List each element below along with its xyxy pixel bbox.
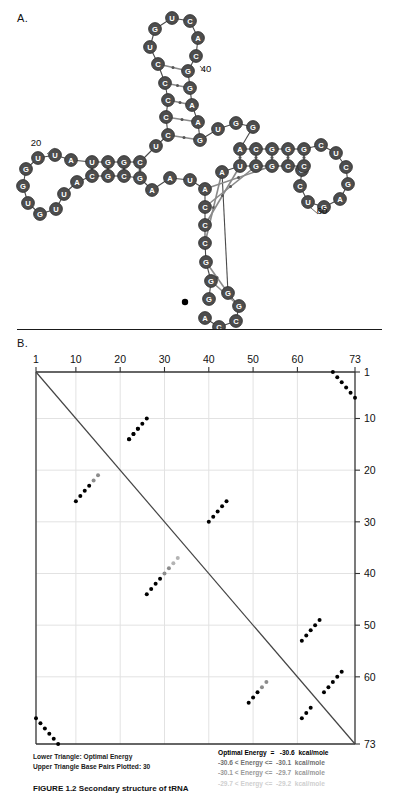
svg-text:C: C	[285, 162, 291, 171]
svg-text:A: A	[195, 118, 201, 127]
dotplot-point	[256, 690, 260, 694]
dotplot-ticks	[36, 367, 360, 744]
dotplot-point	[83, 489, 87, 493]
y-tick-label-1: 1	[364, 366, 370, 378]
nucleotide-58: A	[334, 193, 347, 206]
dotplot-point	[300, 716, 304, 720]
x-tick-label-40: 40	[203, 353, 215, 365]
nucleotide-27: G	[118, 156, 131, 169]
nucleotide-25: U	[86, 156, 99, 169]
position-marker-20: 20	[31, 137, 42, 148]
nucleotide-68: A	[216, 166, 229, 179]
figure-caption: FIGURE 1.2 Secondary structure of tRNA	[33, 784, 383, 793]
svg-text:A: A	[202, 314, 208, 323]
nucleotide-69: G	[222, 287, 235, 300]
svg-text:C: C	[165, 96, 171, 105]
nucleotide-66: G	[250, 160, 263, 173]
nucleotide-48: G	[247, 121, 260, 134]
nucleotide-30: C	[162, 129, 175, 142]
dotplot-point	[167, 566, 171, 570]
dotplot-point	[331, 370, 335, 374]
dotplot-point	[251, 696, 255, 700]
svg-text:G: G	[121, 158, 127, 167]
nucleotide-12: C	[118, 170, 131, 183]
dotplot-point	[216, 510, 220, 514]
nucleotide-29: U	[150, 140, 163, 153]
svg-text:C: C	[202, 239, 208, 248]
nucleotide-1: G	[203, 293, 216, 306]
svg-text:G: G	[285, 145, 291, 154]
svg-text:U: U	[187, 176, 193, 185]
svg-text:C: C	[165, 131, 171, 140]
legend-lower-triangle: Lower Triangle: Optimal Energy	[33, 752, 150, 762]
dotplot-point	[335, 675, 339, 679]
dotplot-point	[264, 680, 268, 684]
nucleotide-22: U	[32, 152, 45, 165]
nucleotide-45: G	[194, 134, 207, 147]
dotplot-point	[247, 701, 251, 705]
dotplot-frame	[36, 372, 355, 744]
nucleotide-14: C	[86, 170, 99, 183]
nucleotide-61: C	[294, 180, 307, 193]
nucleotide-43: A	[186, 99, 199, 112]
dotplot-point	[220, 504, 224, 508]
energy-legend-row-tier2: -30.1 < Energy <= -29.7 kcal/mole	[218, 768, 329, 778]
nucleotide-57: G	[342, 178, 355, 191]
nucleotide-15: A	[71, 176, 84, 189]
nucleotide-36: G	[149, 23, 162, 36]
nucleotide-9: A	[164, 172, 177, 185]
svg-text:C: C	[318, 141, 324, 150]
svg-text:G: G	[185, 67, 191, 76]
nucleotide-32: C	[162, 94, 175, 107]
x-tick-label-1: 1	[33, 353, 39, 365]
dotplot-point	[322, 690, 326, 694]
dotplot-point	[56, 742, 60, 746]
nucleotide-5: C	[199, 219, 212, 232]
nucleotide-50: C	[250, 143, 263, 156]
svg-text:C: C	[187, 17, 193, 26]
nucleotide-52: G	[282, 143, 295, 156]
svg-text:C: C	[297, 182, 303, 191]
svg-text:C: C	[343, 163, 349, 172]
svg-text:U: U	[147, 43, 153, 52]
nucleotide-18: G	[34, 208, 47, 221]
nucleotide-42: G	[184, 82, 197, 95]
dotplot-point	[349, 391, 353, 395]
dotplot-point	[344, 386, 348, 390]
svg-text:A: A	[237, 145, 243, 154]
nucleotide-31: C	[160, 111, 173, 124]
svg-text:U: U	[52, 151, 58, 160]
y-tick-label-60: 60	[364, 671, 376, 683]
nucleotide-8: U	[184, 174, 197, 187]
svg-text:G: G	[225, 289, 231, 298]
dotplot-point	[309, 628, 313, 632]
dotplot-point	[313, 623, 317, 627]
nucleotide-6: C	[199, 201, 212, 214]
svg-text:A: A	[68, 156, 74, 165]
svg-text:C: C	[193, 52, 199, 61]
nucleotide-71: C	[230, 315, 243, 328]
svg-text:C: C	[163, 113, 169, 122]
dotplot-legend-energy: Optimal Energy = -30.6 kcal/mole -30.6 <…	[218, 748, 329, 789]
nucleotide-55: U	[330, 147, 343, 160]
nucleotide-60: U	[302, 196, 315, 209]
y-tick-label-10: 10	[364, 412, 376, 424]
dotplot-point	[326, 685, 330, 689]
svg-text:G: G	[236, 302, 242, 311]
dotplot-point	[145, 417, 149, 421]
dotplot-point	[43, 727, 47, 731]
svg-text:G: G	[233, 119, 239, 128]
svg-text:U: U	[237, 162, 243, 171]
rna-nucleotide-nodes: GGGCCCAUAAGCGCAUUGUGGUUAUGGCUCCCCCUGUCAC…	[17, 12, 355, 330]
nucleotide-40: C	[190, 50, 203, 63]
nucleotide-54: C	[315, 139, 328, 152]
nucleotide-46: U	[212, 123, 225, 136]
nucleotide-28: C	[134, 156, 147, 169]
svg-text:C: C	[89, 172, 95, 181]
svg-text:G: G	[197, 136, 203, 145]
svg-text:U: U	[305, 198, 311, 207]
nucleotide-26: G	[102, 156, 115, 169]
nucleotide-49: A	[234, 143, 247, 156]
dotplot-point	[340, 670, 344, 674]
dotplot-point	[158, 577, 162, 581]
